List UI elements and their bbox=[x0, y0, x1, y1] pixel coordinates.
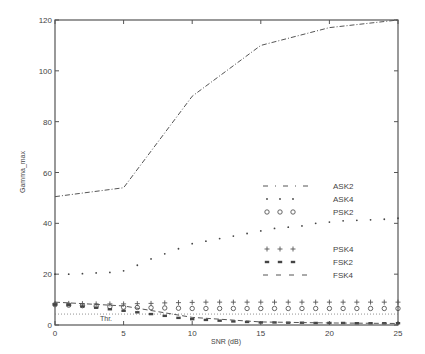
series-ask2 bbox=[55, 20, 398, 197]
legend-label: FSK2 bbox=[333, 258, 354, 267]
axis-ticks: 0510152025020406080100120 bbox=[39, 16, 403, 338]
x-tick-label: 25 bbox=[394, 329, 403, 338]
legend-label: PSK4 bbox=[333, 245, 354, 254]
legend-item-psk4: PSK4 bbox=[265, 245, 355, 254]
y-tick-label: 100 bbox=[39, 67, 53, 76]
x-tick-label: 15 bbox=[256, 329, 265, 338]
legend-label: PSK2 bbox=[333, 208, 354, 217]
y-tick-label: 120 bbox=[39, 16, 53, 25]
x-tick-label: 5 bbox=[121, 329, 126, 338]
y-tick-label: 20 bbox=[43, 270, 52, 279]
legend-label: FSK4 bbox=[333, 271, 354, 280]
legend-item-fsk2: FSK2 bbox=[265, 258, 354, 267]
chart: 0510152025020406080100120 ASK2ASK4PSK2PS… bbox=[0, 0, 425, 354]
legend-label: ASK4 bbox=[333, 195, 354, 204]
x-axis-label: SNR (dB) bbox=[211, 338, 241, 346]
x-tick-label: 10 bbox=[188, 329, 197, 338]
legend: ASK2ASK4PSK2PSK4FSK2FSK4 bbox=[263, 182, 354, 280]
y-axis-label: Gamma_max bbox=[19, 150, 27, 193]
series-psk2 bbox=[53, 302, 400, 310]
y-tick-label: 40 bbox=[43, 219, 52, 228]
legend-item-psk2: PSK2 bbox=[265, 208, 354, 217]
legend-item-fsk4: FSK4 bbox=[263, 271, 354, 280]
x-tick-label: 0 bbox=[53, 329, 58, 338]
legend-item-ask2: ASK2 bbox=[263, 182, 354, 191]
legend-label: ASK2 bbox=[333, 182, 354, 191]
y-tick-label: 0 bbox=[48, 321, 53, 330]
y-tick-label: 80 bbox=[43, 118, 52, 127]
legend-item-ask4: ASK4 bbox=[266, 195, 354, 204]
threshold-label: Thr. bbox=[100, 315, 112, 322]
x-tick-label: 20 bbox=[325, 329, 334, 338]
y-tick-label: 60 bbox=[43, 169, 52, 178]
